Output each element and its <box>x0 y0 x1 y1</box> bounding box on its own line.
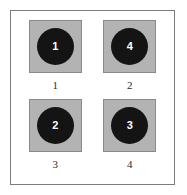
black-disc: 4 <box>111 28 148 65</box>
gray-swatch[interactable]: 1 <box>29 20 82 73</box>
gray-swatch[interactable]: 4 <box>103 20 156 73</box>
gray-swatch[interactable]: 2 <box>29 99 82 152</box>
cell-caption: 2 <box>127 80 133 91</box>
grid-cell[interactable]: 3 4 <box>93 99 168 178</box>
disc-label: 4 <box>127 41 133 52</box>
black-disc: 1 <box>37 28 74 65</box>
black-disc: 3 <box>111 107 148 144</box>
grid-cell[interactable]: 4 2 <box>93 20 168 99</box>
cell-caption: 4 <box>127 159 133 170</box>
figure-panel: 1 1 4 2 2 3 3 <box>10 10 175 185</box>
disc-label: 1 <box>52 41 58 52</box>
cell-caption: 1 <box>53 80 59 91</box>
grid-cell[interactable]: 1 1 <box>18 20 93 99</box>
swatch-grid: 1 1 4 2 2 3 3 <box>11 11 174 184</box>
grid-cell[interactable]: 2 3 <box>18 99 93 178</box>
disc-label: 3 <box>127 120 133 131</box>
gray-swatch[interactable]: 3 <box>103 99 156 152</box>
black-disc: 2 <box>37 107 74 144</box>
cell-caption: 3 <box>53 159 59 170</box>
disc-label: 2 <box>52 120 58 131</box>
